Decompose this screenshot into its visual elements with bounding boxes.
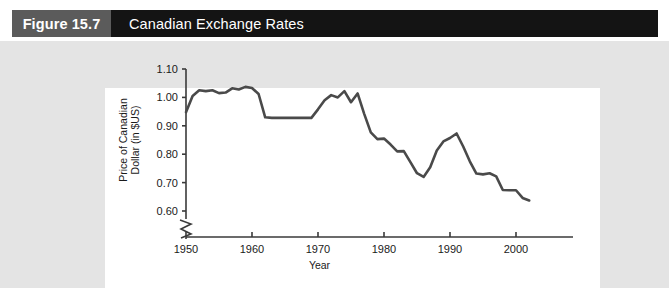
y-tick-label: 0.90 (157, 120, 178, 132)
x-tick-label: 1970 (306, 243, 330, 255)
y-tick-label: 0.70 (157, 177, 178, 189)
figure-title: Canadian Exchange Rates (111, 10, 658, 37)
figure-root: Figure 15.7 Canadian Exchange Rates 0.60… (0, 0, 669, 288)
x-tick-label: 1980 (372, 243, 396, 255)
y-tick-label: 1.10 (157, 63, 178, 75)
y-tick-label: 1.00 (157, 91, 178, 103)
x-tick-label: 1960 (240, 243, 264, 255)
exchange-rate-data-line (186, 87, 529, 201)
y-tick-label: 0.80 (157, 148, 178, 160)
x-tick-label: 1990 (438, 243, 462, 255)
x-tick-label: 2000 (504, 243, 528, 255)
figure-number-tag: Figure 15.7 (12, 10, 111, 37)
exchange-rate-line-chart: 0.600.700.800.901.001.101950196019701980… (105, 47, 600, 273)
x-tick-label: 1950 (174, 243, 198, 255)
figure-header-bar: Figure 15.7 Canadian Exchange Rates (12, 10, 658, 37)
x-axis-title: Year (309, 259, 331, 271)
y-axis-title-line2: Dollar (in $US) (129, 106, 141, 175)
y-tick-label: 0.60 (157, 205, 178, 217)
y-axis-title-line1: Price of Canadian (117, 98, 129, 182)
